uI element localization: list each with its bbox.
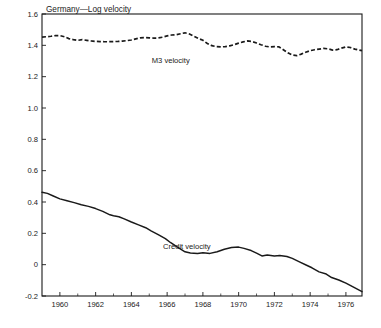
x-tick-label: 1972 [266, 300, 283, 309]
y-tick-label: 0.8 [27, 135, 38, 144]
y-tick-label: -0.2 [25, 292, 38, 301]
x-tick-label: 1966 [159, 300, 176, 309]
log-velocity-chart: 1.61.41.21.00.80.60.40.20-0.2 1960196219… [0, 0, 381, 328]
m3-velocity-annotation: M3 velocity [152, 56, 190, 65]
y-tick-label: 0.2 [27, 229, 38, 238]
x-tick-label: 1976 [337, 300, 354, 309]
figure-container: 1.61.41.21.00.80.60.40.20-0.2 1960196219… [0, 0, 381, 328]
credit-velocity-annotation: Credit velocity [163, 242, 211, 251]
y-tick-label: 1.2 [27, 72, 38, 81]
y-tick-label: 0.4 [27, 198, 38, 207]
x-tick-label: 1962 [87, 300, 104, 309]
x-tick-label: 1964 [123, 300, 140, 309]
x-tick-label: 1960 [51, 300, 68, 309]
chart-title: Germany—Log velocity [46, 5, 132, 14]
y-tick-label: 1.6 [27, 10, 38, 19]
x-tick-label: 1974 [302, 300, 319, 309]
y-tick-label: 1.4 [27, 41, 38, 50]
x-tick-label: 1968 [194, 300, 211, 309]
x-tick-label: 1970 [230, 300, 247, 309]
y-tick-label: 1.0 [27, 104, 38, 113]
y-tick-label: 0.6 [27, 166, 38, 175]
y-tick-label: 0 [34, 260, 38, 269]
